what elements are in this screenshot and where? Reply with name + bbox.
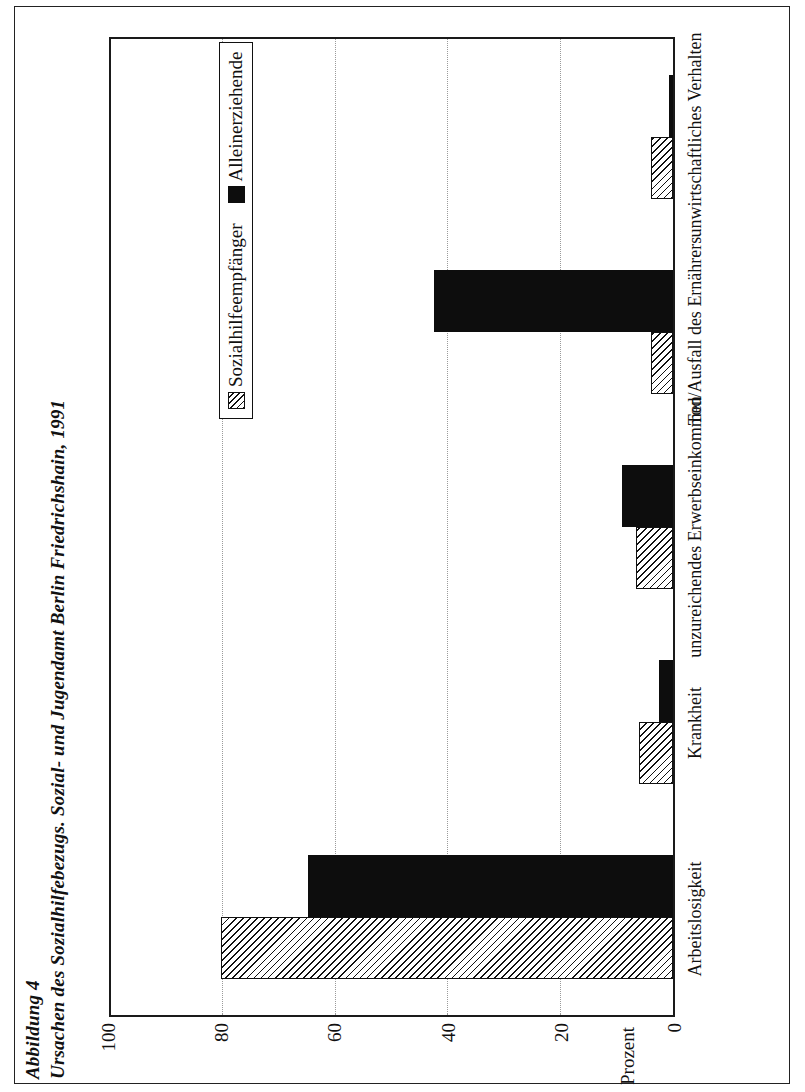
axis-tick-80: 80 — [211, 1023, 233, 1063]
axis-tick-100: 100 — [98, 1023, 120, 1063]
bar-group-arbeitslosigkeit — [111, 820, 673, 1015]
category-label-unwirtschaftliches-verhalten: unwirtschaftliches Verhalten — [681, 37, 781, 233]
legend-label-alleinerziehende: Alleinerziehende — [225, 52, 247, 182]
bar-group-krankheit — [111, 625, 673, 820]
bar-alleinerziehende-krankheit — [659, 660, 673, 722]
axis-tick-20: 20 — [551, 1023, 573, 1063]
category-text: Arbeitslosigkeit — [685, 862, 706, 977]
category-label-arbeitslosigkeit: Arbeitslosigkeit — [681, 821, 781, 1017]
bar-sozialhilfeempfaenger-tod-ausfall — [651, 332, 673, 394]
bar-sozialhilfeempfaenger-krankheit — [639, 722, 673, 784]
bar-alleinerziehende-tod-ausfall — [434, 270, 673, 332]
category-label-unzureichendes-erwerbseinkommen: unzureichendes Erwerbseinkommen — [681, 429, 781, 625]
plot-area: Sozialhilfeempfänger Alleinerziehende — [109, 37, 675, 1017]
plot-wrapper: Sozialhilfeempfänger Alleinerziehende 0 … — [109, 37, 675, 1017]
bar-group-tod-ausfall-des-ernaehrers — [111, 234, 673, 429]
bar-groups — [111, 39, 673, 1015]
axis-tick-40: 40 — [438, 1023, 460, 1063]
legend-swatch-hatched-icon — [228, 392, 245, 409]
figure-label: Abbildung 4 — [21, 19, 46, 1079]
category-label-tod-ausfall-des-ernaehrers: Tod/Ausfall des Ernährers — [681, 233, 781, 429]
bar-sozialhilfeempfaenger-unwirtschaftlich — [651, 137, 673, 199]
legend-swatch-solid-icon — [228, 186, 245, 203]
axis-tick-0: 0 — [664, 1023, 686, 1063]
legend-entry-sozialhilfeempfaenger: Sozialhilfeempfänger — [225, 223, 247, 409]
category-labels: Arbeitslosigkeit Krankheit unzureichende… — [681, 37, 781, 1017]
bar-alleinerziehende-unwirtschaftlich — [669, 75, 673, 137]
figure-caption: Ursachen des Sozialhilfebezugs. Sozial- … — [46, 19, 71, 1079]
bar-sozialhilfeempfaenger-erwerbseinkommen — [636, 527, 673, 589]
legend-entry-alleinerziehende: Alleinerziehende — [225, 52, 247, 204]
figure-title: Abbildung 4 Ursachen des Sozialhilfebezu… — [21, 19, 70, 1079]
figure-page: Abbildung 4 Ursachen des Sozialhilfebezu… — [0, 0, 805, 1092]
rotated-figure-block: Abbildung 4 Ursachen des Sozialhilfebezu… — [17, 11, 787, 1079]
axis-tick-60: 60 — [324, 1023, 346, 1063]
bar-sozialhilfeempfaenger-arbeitslosigkeit — [221, 917, 673, 979]
category-text: unwirtschaftliches Verhalten — [685, 32, 706, 237]
bar-alleinerziehende-erwerbseinkommen — [622, 465, 673, 527]
category-text: Tod/Ausfall des Ernährers — [685, 237, 706, 426]
legend-label-sozialhilfeempfaenger: Sozialhilfeempfänger — [225, 223, 247, 387]
category-text: unzureichendes Erwerbseinkommen — [685, 396, 706, 657]
bar-group-unzureichendes-erwerbseinkommen — [111, 429, 673, 624]
chart-legend: Sozialhilfeempfänger Alleinerziehende — [219, 42, 253, 419]
category-text: Krankheit — [685, 687, 706, 759]
value-axis-title: Prozent — [617, 885, 639, 1085]
bar-group-unwirtschaftliches-verhalten — [111, 39, 673, 234]
